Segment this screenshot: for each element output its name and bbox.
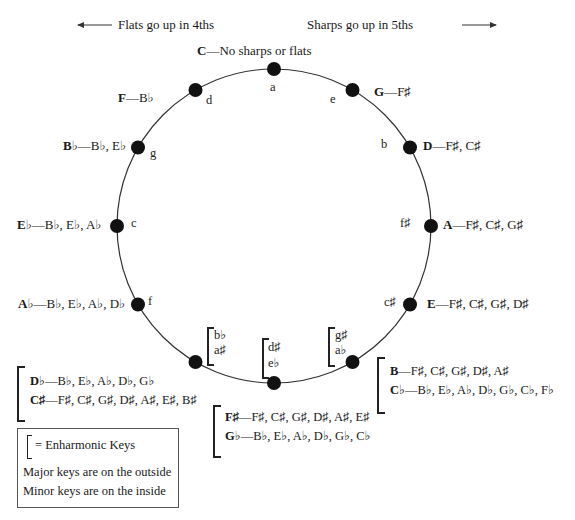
enharmonic-bracket-icon bbox=[17, 366, 25, 422]
minor-label-d-sharp: d♯ bbox=[268, 340, 281, 355]
key-label-g: G—F♯ bbox=[374, 84, 411, 99]
flats-direction-label: Flats go up in 4ths bbox=[118, 17, 214, 32]
key-label-b-flat: B♭—B♭, E♭ bbox=[63, 138, 126, 153]
key-dot-icon bbox=[131, 298, 145, 312]
key-dot-icon bbox=[346, 83, 360, 97]
minor-label-e: e bbox=[330, 92, 336, 107]
minor-label-a-flat: a♭ bbox=[335, 343, 346, 358]
key-dot-icon bbox=[346, 355, 360, 369]
legend-box: = Enharmonic Keys Major keys are on the … bbox=[17, 428, 179, 508]
key-dot-icon bbox=[189, 83, 203, 97]
legend-major-note: Major keys are on the outside bbox=[23, 465, 171, 480]
minor-label-b-flat: b♭ bbox=[214, 328, 226, 343]
key-label-d-flat: D♭—B♭, E♭, A♭, D♭, G♭ bbox=[30, 374, 154, 389]
minor-label-d: d bbox=[206, 93, 212, 108]
key-dot-icon bbox=[131, 141, 145, 155]
key-label-f: F—B♭ bbox=[118, 90, 154, 105]
minor-label-c: c bbox=[131, 216, 137, 231]
key-dot-icon bbox=[403, 298, 417, 312]
key-label-b: B—F♯, C♯, G♯, D♯, A♯ bbox=[390, 364, 509, 379]
minor-label-g: g bbox=[150, 146, 156, 161]
key-dot-icon bbox=[403, 141, 417, 155]
key-label-c-flat: C♭—B♭, E♭, A♭, D♭, G♭, C♭, F♭ bbox=[390, 383, 554, 398]
minor-label-f: f bbox=[148, 294, 152, 309]
legend-minor-note: Minor keys are on the inside bbox=[23, 484, 166, 499]
minor-label-a-sharp: a♯ bbox=[214, 343, 226, 358]
minor-label-a: a bbox=[270, 80, 276, 95]
key-label-d: D—F♯, C♯ bbox=[423, 138, 481, 153]
key-dot-icon bbox=[267, 376, 281, 390]
key-label-e-flat: E♭—B♭, E♭, A♭ bbox=[17, 217, 102, 232]
circle-ring bbox=[117, 69, 431, 383]
key-label-c-sharp: C♯—F♯, C♯, G♯, D♯, A♯, E♯, B♯ bbox=[30, 393, 197, 408]
legend-bracket-meaning: = Enharmonic Keys bbox=[35, 438, 135, 453]
key-label-e: E—F♯, C♯, G♯, D♯ bbox=[427, 296, 529, 311]
key-label-a-flat: A♭—B♭, E♭, A♭, D♭ bbox=[18, 296, 125, 311]
minor-label-g-sharp: g♯ bbox=[335, 328, 348, 343]
enharmonic-bracket-icon bbox=[207, 327, 214, 366]
minor-label-e-flat: e♭ bbox=[268, 356, 279, 371]
key-dot-icon bbox=[424, 219, 438, 233]
enharmonic-bracket-icon bbox=[27, 435, 32, 459]
minor-label-b: b bbox=[381, 137, 387, 152]
key-label-c: C—No sharps or flats bbox=[197, 43, 311, 58]
key-dot-icon bbox=[267, 62, 281, 76]
key-dot-icon bbox=[110, 219, 124, 233]
enharmonic-bracket-icon bbox=[213, 405, 221, 458]
minor-label-f-sharp: f♯ bbox=[400, 216, 410, 231]
key-label-g-flat: G♭—B♭, E♭, A♭, D♭, G♭, C♭ bbox=[225, 429, 370, 444]
key-label-a: A—F♯, C♯, G♯ bbox=[443, 217, 523, 232]
enharmonic-bracket-icon bbox=[328, 327, 335, 367]
key-dot-icon bbox=[189, 355, 203, 369]
enharmonic-bracket-icon bbox=[377, 357, 385, 414]
sharps-direction-label: Sharps go up in 5ths bbox=[307, 17, 413, 32]
key-label-f-sharp: F♯—F♯, C♯, G♯, D♯, A♯, E♯ bbox=[225, 410, 369, 425]
minor-label-c-sharp: c♯ bbox=[384, 295, 396, 310]
